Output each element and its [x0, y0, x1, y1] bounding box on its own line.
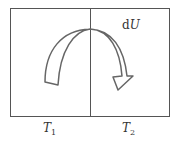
- left-region-symbol: T: [43, 121, 51, 135]
- right-region-label: T2: [122, 121, 135, 137]
- right-region-subscript: 2: [130, 128, 135, 137]
- left-region-subscript: 1: [51, 128, 56, 137]
- diagram-canvas: [0, 0, 180, 141]
- flow-label-prefix: d: [122, 18, 130, 32]
- flow-label-symbol: U: [130, 18, 140, 32]
- flow-label: dU: [122, 18, 140, 32]
- heat-flow-arrow: [45, 29, 133, 90]
- left-region-label: T1: [43, 121, 56, 137]
- right-region-symbol: T: [122, 121, 130, 135]
